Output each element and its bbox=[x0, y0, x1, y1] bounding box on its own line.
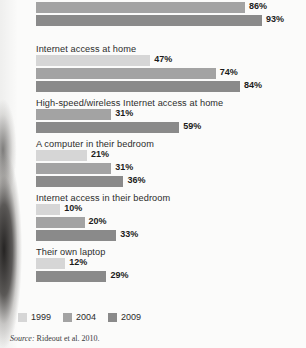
bar-group-label: A computer in their bedroom bbox=[0, 138, 306, 150]
bar-value-label: 93% bbox=[266, 14, 284, 24]
bar-row: 74% bbox=[0, 68, 306, 79]
legend-label: 1999 bbox=[31, 312, 51, 322]
bar-row: 10% bbox=[0, 204, 306, 215]
bar-value-label: 20% bbox=[89, 216, 107, 226]
bar-value-label: 10% bbox=[64, 203, 82, 213]
legend-label: 2009 bbox=[121, 312, 141, 322]
bar-row: 59% bbox=[0, 122, 306, 133]
bar-row: 33% bbox=[0, 230, 306, 241]
bar-group: Internet access in their bedroom10%20%33… bbox=[0, 192, 306, 243]
bar-value-label: 21% bbox=[91, 149, 109, 159]
bar-2004 bbox=[36, 68, 216, 79]
legend-item: 1999 bbox=[18, 312, 51, 322]
bar-value-label: 74% bbox=[220, 67, 238, 77]
bar-row: 20% bbox=[0, 217, 306, 228]
bar-value-label: 59% bbox=[183, 121, 201, 131]
legend-swatch-icon bbox=[63, 313, 72, 322]
bar-chart: 73%86%93%Internet access at home47%74%84… bbox=[0, 0, 306, 326]
bar-2004 bbox=[36, 109, 111, 120]
source-text: Rideout et al. 2010. bbox=[37, 334, 100, 343]
bar-1999 bbox=[36, 55, 150, 66]
bar-row: 84% bbox=[0, 81, 306, 92]
bar-group: Internet access at home47%74%84% bbox=[0, 43, 306, 94]
bar-2009 bbox=[36, 81, 240, 92]
figure-page: 73%86%93%Internet access at home47%74%84… bbox=[0, 0, 306, 348]
source-prefix: Source: bbox=[10, 334, 35, 343]
bar-row: 29% bbox=[0, 271, 306, 282]
bar-value-label: 12% bbox=[69, 257, 87, 267]
legend-swatch-icon bbox=[18, 313, 27, 322]
bar-2009 bbox=[36, 271, 106, 282]
bar-value-label: 31% bbox=[115, 162, 133, 172]
bar-2009 bbox=[36, 176, 123, 187]
bar-2004 bbox=[36, 163, 111, 174]
bar-1999 bbox=[36, 204, 60, 215]
bar-group-label: High-speed/wireless Internet access at h… bbox=[0, 97, 306, 109]
bar-2004 bbox=[36, 2, 245, 13]
legend-item: 2009 bbox=[108, 312, 141, 322]
bar-row: 93% bbox=[0, 15, 306, 26]
bar-row: 12% bbox=[0, 258, 306, 269]
source-note: Source: Rideout et al. 2010. bbox=[10, 334, 99, 343]
bar-1999 bbox=[36, 150, 87, 161]
bar-group-label: Internet access in their bedroom bbox=[0, 192, 306, 204]
bar-row: 86% bbox=[0, 2, 306, 13]
bar-value-label: 36% bbox=[127, 175, 145, 185]
bar-value-label: 31% bbox=[115, 108, 133, 118]
bar-value-label: 29% bbox=[110, 270, 128, 280]
bar-row: 31% bbox=[0, 163, 306, 174]
legend-item: 2004 bbox=[63, 312, 96, 322]
bar-value-label: 33% bbox=[120, 229, 138, 239]
bar-2004 bbox=[36, 217, 85, 228]
bar-row: 31% bbox=[0, 109, 306, 120]
bar-value-label: 84% bbox=[244, 80, 262, 90]
chart-legend: 199920042009 bbox=[0, 312, 149, 322]
bar-row: 21% bbox=[0, 150, 306, 161]
bar-group: Their own laptop12%29% bbox=[0, 246, 306, 284]
legend-label: 2004 bbox=[76, 312, 96, 322]
bar-1999 bbox=[36, 258, 65, 269]
bar-row: 36% bbox=[0, 176, 306, 187]
bar-group-label: Internet access at home bbox=[0, 43, 306, 55]
bar-value-label: 47% bbox=[154, 54, 172, 64]
bar-2009 bbox=[36, 15, 262, 26]
bar-row: 47% bbox=[0, 55, 306, 66]
bar-group: 73%86%93% bbox=[0, 0, 306, 28]
bar-2009 bbox=[36, 122, 179, 133]
legend-swatch-icon bbox=[108, 313, 117, 322]
bar-value-label: 86% bbox=[249, 1, 267, 11]
bar-group: A computer in their bedroom21%31%36% bbox=[0, 138, 306, 189]
bar-group: High-speed/wireless Internet access at h… bbox=[0, 97, 306, 135]
bar-group-label: Their own laptop bbox=[0, 246, 306, 258]
bar-2009 bbox=[36, 230, 116, 241]
